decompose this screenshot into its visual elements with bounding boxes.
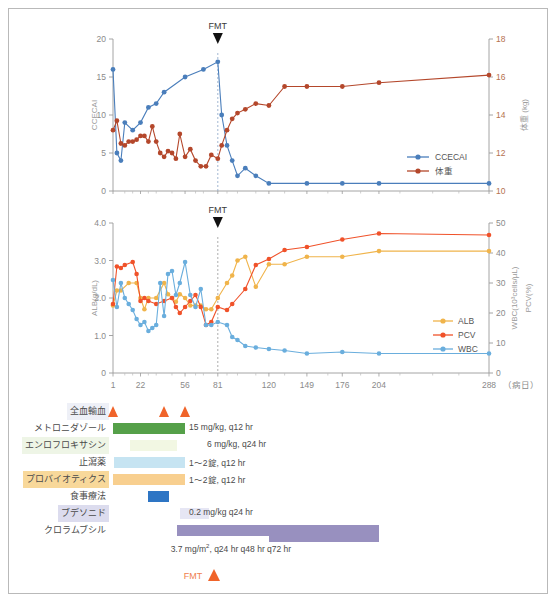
series-point-WBC	[216, 320, 221, 325]
series-point-体重	[225, 128, 230, 133]
series-point-ALB	[154, 296, 159, 301]
axis-text: 14	[496, 110, 506, 120]
series-line-CCECAI	[113, 62, 489, 184]
treatment-bar	[130, 440, 177, 451]
x-tick-1: 1	[111, 380, 116, 390]
top-y-right-label: 体重 (kg)	[519, 99, 529, 131]
series-point-体重	[282, 84, 287, 89]
series-point-WBC	[377, 351, 382, 356]
series-point-CCECAI	[235, 173, 240, 178]
series-point-CCECAI	[267, 181, 272, 186]
treatment-label: クロラムブシル	[41, 522, 109, 539]
x-tick-176: 176	[335, 380, 349, 390]
series-point-WBC	[170, 269, 175, 274]
series-point-ALB	[188, 303, 193, 308]
chlorambucil-dose-caption: 3.7 mg/m2, q24 hr q48 hr q72 hr	[171, 543, 292, 554]
series-point-WBC	[115, 305, 120, 310]
axis-text: FMT	[209, 205, 228, 215]
series-point-PCV	[267, 257, 272, 262]
series-point-PCV	[130, 260, 135, 265]
transfusion-arrow-icon	[108, 406, 118, 417]
bottom-chart-svg: 01.02.03.04.0010203040501225681120149176…	[9, 201, 549, 401]
series-point-CCECAI	[138, 120, 143, 125]
series-point-WBC	[235, 338, 240, 343]
series-point-PCV	[282, 248, 287, 253]
series-point-PCV	[216, 305, 221, 310]
series-point-CCECAI	[122, 120, 127, 125]
treatment-row: メトロニダゾール15 mg/kg, q12 hr	[9, 420, 549, 437]
series-point-CCECAI	[219, 113, 224, 118]
series-point-ALB	[230, 273, 235, 278]
series-point-ALB	[267, 262, 272, 267]
series-point-PCV	[487, 233, 492, 238]
series-point-WBC	[174, 293, 179, 298]
series-point-PCV	[243, 287, 248, 292]
series-point-WBC	[178, 281, 183, 286]
bottom-y-right-pcv-label: PCV(%)	[524, 283, 533, 312]
series-point-WBC	[230, 335, 235, 340]
x-axis-unit-label: （病日）	[503, 380, 539, 390]
axis-text: 10	[496, 186, 506, 196]
treatment-label: 全血輸血	[67, 403, 109, 420]
legend-label-WBC: WBC	[458, 344, 478, 354]
series-point-ALB	[216, 296, 221, 301]
series-point-WBC	[162, 314, 167, 319]
axis-text: 16	[496, 72, 506, 82]
series-point-CCECAI	[154, 101, 159, 106]
series-point-PCV	[142, 296, 147, 301]
series-point-CCECAI	[243, 166, 248, 171]
series-point-WBC	[166, 272, 171, 277]
legend-label-CCECAI: CCECAI	[435, 152, 467, 162]
footer-fmt-label: FMT	[184, 571, 203, 581]
axis-text: 0	[496, 368, 501, 378]
series-point-WBC	[267, 347, 272, 352]
series-point-体重	[134, 137, 139, 142]
fmt-marker: FMT	[209, 205, 228, 228]
axis-text: 30	[496, 278, 506, 288]
fmt-arrow-icon	[208, 569, 220, 581]
series-point-体重	[230, 116, 235, 121]
axis-text: 4.0	[94, 218, 106, 228]
series-point-PCV	[134, 272, 139, 277]
series-point-PCV	[115, 264, 120, 269]
figure-frame: 051015201012141618CCECAI体重 (kg)FMTCCECAI…	[8, 8, 548, 594]
legend-label-体重: 体重	[435, 166, 453, 176]
series-point-体重	[204, 164, 209, 169]
axis-text: 50	[496, 218, 506, 228]
series-point-体重	[198, 164, 203, 169]
treatment-dose: 6 mg/kg, q24 hr	[207, 439, 266, 449]
treatment-row: ブデソニド0.2 mg/kg q24 hr	[9, 505, 549, 522]
bottom-chart-legend: ALBPCVWBC	[433, 316, 478, 354]
axis-text: 15	[97, 72, 107, 82]
series-point-ALB	[178, 292, 183, 297]
series-point-体重	[111, 128, 116, 133]
series-point-体重	[487, 73, 492, 78]
treatment-label: エンロフロキサシン	[22, 437, 109, 454]
treatment-bar	[114, 457, 185, 468]
series-point-ALB	[377, 249, 382, 254]
series-point-CCECAI	[487, 181, 492, 186]
series-point-WBC	[225, 323, 230, 328]
series-point-PCV	[146, 299, 151, 304]
series-point-WBC	[130, 308, 135, 313]
series-point-CCECAI	[183, 75, 188, 80]
top-y-left-label: CCECAI	[90, 100, 99, 130]
series-point-WBC	[188, 293, 193, 298]
series-point-体重	[146, 139, 151, 144]
series-point-体重	[193, 158, 198, 163]
footer-fmt-marker: FMT	[184, 565, 221, 583]
series-point-WBC	[126, 302, 131, 307]
series-point-体重	[305, 84, 310, 89]
legend-label-ALB: ALB	[458, 316, 474, 326]
series-point-体重	[377, 80, 382, 85]
series-point-CCECAI	[225, 143, 230, 148]
axis-text: 3.0	[94, 256, 106, 266]
series-point-PCV	[340, 237, 345, 242]
series-point-CCECAI	[201, 67, 206, 72]
axis-text: 1.0	[94, 331, 106, 341]
series-point-体重	[219, 143, 224, 148]
axis-text: 10	[496, 338, 506, 348]
chlorambucil-dose-suffix: , q24 hr q48 hr q72 hr	[209, 544, 291, 554]
treatment-row: プロバイオティクス1〜2錠, q12 hr	[9, 471, 549, 488]
series-point-CCECAI	[130, 128, 135, 133]
